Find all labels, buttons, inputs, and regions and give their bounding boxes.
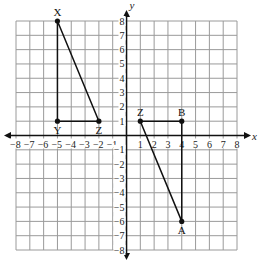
x-axis-right-arrow-icon [244, 132, 251, 139]
x-tick-label: 8 [235, 139, 240, 150]
y-tick-label: 3 [120, 87, 125, 98]
x-tick-label: 3 [165, 139, 170, 150]
y-tick-label: −1 [114, 144, 125, 155]
y-tick-label: −8 [114, 245, 125, 256]
y-tick-label: 2 [120, 101, 125, 112]
vertex-label-Y: Y [53, 124, 61, 136]
vertex-label-Z: Z [137, 106, 144, 118]
x-tick-label: −3 [79, 139, 90, 150]
vertex-label-B: B [178, 106, 185, 118]
y-tick-label: −4 [114, 187, 125, 198]
y-tick-label: −2 [114, 159, 125, 170]
x-tick-label: −7 [24, 139, 35, 150]
y-tick-label: 6 [120, 44, 125, 55]
y-tick-label: 8 [120, 16, 125, 27]
coordinate-plane: xy −8−7−6−5−4−3−2−11234567887654321−1−2−… [0, 0, 259, 261]
x-axis-label: x [251, 130, 257, 142]
x-tick-label: −5 [51, 139, 62, 150]
x-tick-label: 5 [193, 139, 198, 150]
y-tick-label: 4 [120, 73, 125, 84]
x-tick-label: 1 [138, 139, 143, 150]
vertex-point [55, 119, 60, 124]
y-axis-label: y [129, 0, 135, 11]
y-tick-label: −7 [114, 230, 125, 241]
x-tick-label: −2 [93, 139, 104, 150]
y-tick-label: −6 [114, 216, 125, 227]
triangle-XYZ [57, 21, 98, 121]
y-tick-label: −3 [114, 173, 125, 184]
x-tick-label: 7 [221, 139, 226, 150]
vertex-label-A: A [178, 224, 186, 236]
vertex-point [55, 18, 60, 23]
vertex-point [179, 119, 184, 124]
vertex-point [138, 119, 143, 124]
x-tick-label: −4 [65, 139, 76, 150]
x-tick-label: 2 [152, 139, 157, 150]
x-tick-label: 6 [207, 139, 212, 150]
x-tick-label: −8 [10, 139, 21, 150]
y-tick-label: 7 [120, 30, 125, 41]
y-tick-label: 5 [120, 58, 125, 69]
vertex-point [179, 219, 184, 224]
y-tick-label: 1 [120, 116, 125, 127]
x-tick-label: −6 [38, 139, 49, 150]
vertex-label-Z: Z [96, 124, 103, 136]
vertex-point [96, 119, 101, 124]
y-tick-label: −5 [114, 202, 125, 213]
vertex-label-X: X [53, 6, 61, 18]
